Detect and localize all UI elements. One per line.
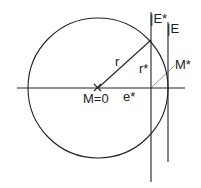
m-star-line [151,66,174,88]
label-e-star: e* [123,90,135,103]
label-E: |E [167,22,179,35]
label-m-star: M* [175,58,191,71]
label-m-zero: M=0 [83,92,109,105]
label-E-star: |E* [150,12,167,25]
label-r: r [115,55,119,68]
label-r-star: r* [139,62,148,75]
